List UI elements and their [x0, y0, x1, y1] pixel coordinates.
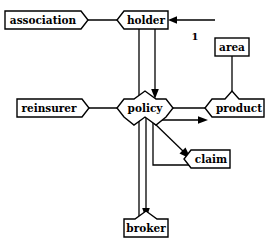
entity-claim-label: claim [195, 153, 227, 165]
entity-holder-label: holder [127, 14, 166, 26]
entity-broker-label: broker [126, 222, 166, 234]
entity-reinsurer-label: reinsurer [21, 102, 77, 114]
arrowhead-external-holder [168, 16, 177, 24]
entity-product-label: product [216, 102, 262, 114]
entity-broker[interactable]: broker [124, 211, 168, 237]
entity-area[interactable]: area [215, 38, 249, 56]
entity-relationship-diagram: association holder area reinsurer policy… [0, 0, 276, 245]
entity-association-label: association [10, 14, 77, 26]
arrowhead-policy-product [198, 116, 208, 124]
entity-product[interactable]: product [205, 91, 264, 117]
connection-policy-claim-diagonal [153, 122, 185, 153]
diagram-canvas: association holder area reinsurer policy… [0, 0, 276, 245]
entity-reinsurer[interactable]: reinsurer [17, 99, 89, 117]
entity-claim[interactable]: claim [184, 150, 230, 168]
entity-holder[interactable]: holder [117, 11, 168, 29]
cardinality-label-1: 1 [192, 31, 199, 42]
entity-policy-label: policy [128, 102, 164, 114]
entity-area-label: area [219, 41, 245, 53]
entity-association[interactable]: association [5, 11, 88, 29]
